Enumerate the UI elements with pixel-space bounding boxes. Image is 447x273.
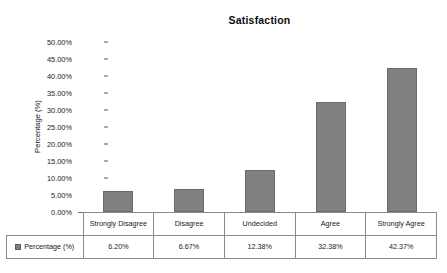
y-axis-tick-label: 45.00% [47, 55, 72, 64]
y-axis-tick-label: 50.00% [47, 38, 72, 47]
table-value-cell: 12.38% [224, 236, 295, 259]
table-corner-blank [7, 213, 84, 236]
table-value-cell: 32.38% [295, 236, 366, 259]
table-header-cell: Agree [295, 213, 366, 236]
table-row-values: Percentage (%)6.20%6.67%12.38%32.38%42.3… [7, 236, 437, 259]
table-value-cell: 6.20% [83, 236, 154, 259]
chart-data-table: Strongly DisagreeDisagreeUndecidedAgreeS… [6, 212, 437, 258]
table-header-cell: Undecided [224, 213, 295, 236]
y-axis-tick-label: 35.00% [47, 89, 72, 98]
y-axis-tick-label: 20.00% [47, 140, 72, 149]
legend-label: Percentage (%) [24, 242, 74, 251]
table-header-cell: Disagree [154, 213, 225, 236]
y-axis-tick-label: 40.00% [47, 72, 72, 81]
y-axis-tick-label: 5.00% [51, 191, 72, 200]
plot-area [82, 42, 437, 212]
y-axis-tick-label: 25.00% [47, 123, 72, 132]
y-axis-tick-label: 30.00% [47, 106, 72, 115]
y-axis-tick-label: 15.00% [47, 157, 72, 166]
bar [245, 170, 275, 212]
bar [316, 102, 346, 212]
table-value-cell: 42.37% [366, 236, 437, 259]
bar [387, 68, 417, 212]
table-header-cell: Strongly Agree [366, 213, 437, 236]
y-axis-tick-label: 10.00% [47, 174, 72, 183]
table-row-categories: Strongly DisagreeDisagreeUndecidedAgreeS… [7, 213, 437, 236]
bar-chart-figure: Satisfaction Percentage (%) 50.00%45.00%… [0, 0, 447, 273]
bar [174, 189, 204, 212]
bar [103, 191, 133, 212]
legend-entry: Percentage (%) [7, 236, 84, 259]
chart-title: Satisfaction [82, 14, 437, 26]
table-value-cell: 6.67% [154, 236, 225, 259]
legend-swatch-icon [15, 244, 21, 250]
y-axis-tick-labels: 50.00%45.00%40.00%35.00%30.00%25.00%20.0… [26, 42, 76, 212]
table-header-cell: Strongly Disagree [83, 213, 154, 236]
